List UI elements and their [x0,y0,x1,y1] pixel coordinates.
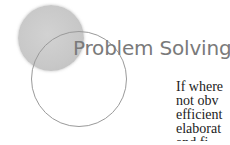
body-line-partial: and fi [176,136,223,141]
section-title: Problem Solving [73,36,230,60]
body-line: If where [176,80,223,94]
document-page: Problem Solving If where not obv efficie… [0,0,230,145]
body-line: elaborat [176,122,223,136]
body-line: efficient [176,108,223,122]
body-paragraph: If where not obv efficient elaborat and … [176,80,223,141]
body-line: not obv [176,94,223,108]
